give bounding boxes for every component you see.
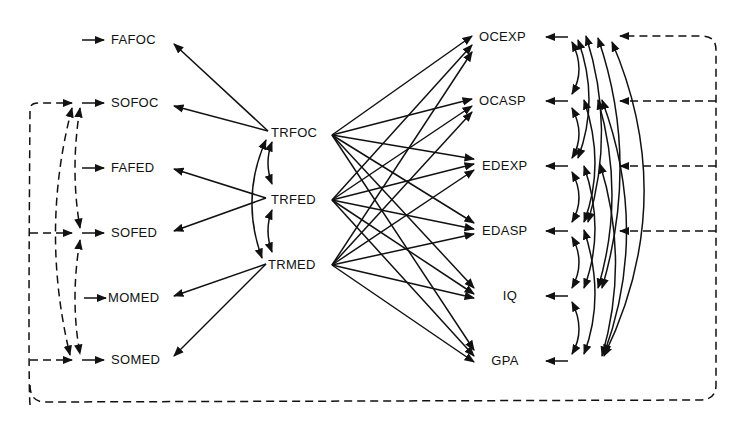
node-trmed: TRMED: [268, 258, 316, 272]
node-ocasp: OCASP: [479, 94, 526, 108]
node-sofoc: SOFOC: [111, 96, 159, 110]
node-momed: MOMED: [108, 291, 159, 305]
node-fafoc: FAFOC: [111, 33, 156, 47]
node-trfed: TRFED: [271, 193, 316, 207]
node-iq: IQ: [503, 289, 517, 303]
node-edexp: EDEXP: [482, 159, 528, 173]
node-ocexp: OCEXP: [479, 30, 526, 44]
node-sofed: SOFED: [111, 226, 157, 240]
node-gpa: GPA: [491, 354, 518, 368]
node-somed: SOMED: [111, 353, 160, 367]
node-fafed: FAFED: [111, 161, 154, 175]
node-edasp: EDASP: [482, 224, 528, 238]
node-trfoc: TRFOC: [271, 126, 317, 140]
path-diagram: FAFOC SOFOC FAFED SOFED MOMED SOMED TRFO…: [0, 0, 738, 425]
